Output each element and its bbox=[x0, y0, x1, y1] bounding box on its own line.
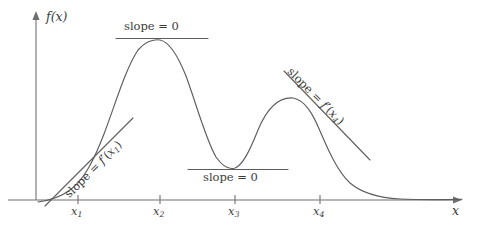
x-tick-label-x1: x1 bbox=[71, 206, 82, 219]
x-tick-label-x3-sub: 3 bbox=[235, 210, 240, 219]
slope-zero-min-label: slope = 0 bbox=[203, 172, 258, 184]
x-tick-label-x3: x3 bbox=[228, 206, 239, 219]
y-axis-arrowhead bbox=[32, 11, 39, 20]
x-axis-label: x bbox=[452, 205, 459, 218]
slope-zero-max-label: slope = 0 bbox=[124, 21, 179, 33]
y-axis-label: f(x) bbox=[46, 11, 67, 24]
x-tick-label-x2: x2 bbox=[153, 206, 164, 219]
x-tick-label-x2-sub: 2 bbox=[160, 210, 165, 219]
function-graph-figure: f(x) x x1 x2 x3 x4 slope = 0 slope = 0 s… bbox=[0, 0, 481, 234]
x-tick-label-x4-sub: 4 bbox=[320, 210, 325, 219]
x-tick-label-x1-sub: 1 bbox=[78, 210, 83, 219]
x-tick-label-x4: x4 bbox=[313, 206, 324, 219]
